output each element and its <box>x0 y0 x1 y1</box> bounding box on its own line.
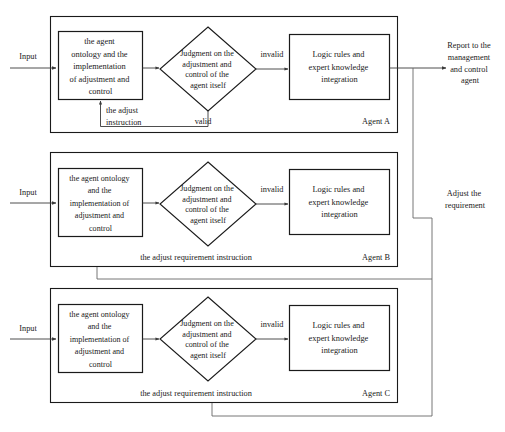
agent-a-group: Input the agent ontology and the impleme… <box>10 17 398 133</box>
agent-a-name-label: Agent A <box>362 117 390 126</box>
agent-a-invalid-label: invalid <box>260 50 284 59</box>
agent-b-group: Input the agent ontology and the impleme… <box>10 153 398 267</box>
agent-b-decision-diamond <box>160 162 256 246</box>
agent-c-name-label: Agent C <box>362 389 390 398</box>
agent-b-name-label: Agent B <box>362 253 390 262</box>
agent-c-feedback-label: the adjust requirement instruction <box>140 389 253 398</box>
agent-b-input-label: Input <box>19 188 37 197</box>
agent-a-input-label: Input <box>19 52 37 61</box>
agent-c-decision-diamond <box>160 297 256 381</box>
report-output-label: Report to the management and control age… <box>447 41 492 85</box>
agent-c-input-label: Input <box>19 324 37 333</box>
adjust-requirement-label: Adjust the requirement <box>445 189 486 210</box>
agent-b-invalid-label: invalid <box>260 185 284 194</box>
agent-a-feedback-label: the adjust instruction <box>106 106 142 127</box>
agent-b-feedback-route <box>97 267 432 279</box>
agent-a-decision-diamond <box>160 27 256 111</box>
agent-c-group: Input the agent ontology and the impleme… <box>10 289 398 403</box>
agent-architecture-diagram: Input the agent ontology and the impleme… <box>0 0 505 432</box>
agent-b-feedback-label: the adjust requirement instruction <box>140 253 253 262</box>
diagram-canvas: Input the agent ontology and the impleme… <box>0 0 505 432</box>
agent-c-invalid-label: invalid <box>260 320 284 329</box>
agent-a-valid-label: valid <box>195 117 212 126</box>
